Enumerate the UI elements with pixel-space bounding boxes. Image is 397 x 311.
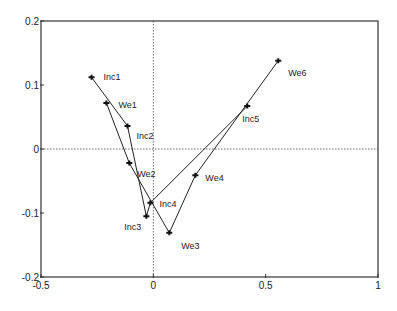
point-label-we3: We3: [181, 241, 199, 251]
y-tick-label: 0.2: [25, 16, 39, 27]
y-tick-label: 0.1: [25, 80, 39, 91]
y-tick-label: 0: [33, 144, 39, 155]
x-tick-label: 0: [151, 280, 157, 291]
point-label-inc4: Inc4: [159, 199, 176, 209]
point-label-we2: We2: [137, 169, 155, 179]
data-point-inc3: [143, 214, 149, 219]
point-label-inc5: Inc5: [242, 114, 259, 124]
data-point-we2: [126, 161, 132, 166]
x-tick-label: 1: [375, 280, 381, 291]
y-tick-label: -0.2: [22, 272, 40, 283]
data-point-we4: [192, 173, 198, 178]
point-label-we4: We4: [205, 173, 223, 183]
point-label-we1: We1: [118, 100, 136, 110]
series-line-inc: [92, 77, 248, 216]
point-label-inc1: Inc1: [104, 72, 121, 82]
data-point-we1: [103, 100, 109, 105]
point-label-inc3: Inc3: [124, 222, 141, 232]
biplot-chart: -0.500.51 -0.2-0.100.10.2 Inc1Inc2Inc3In…: [0, 0, 397, 311]
data-point-inc2: [124, 123, 130, 128]
data-point-we6: [275, 58, 281, 63]
point-label-inc2: Inc2: [136, 131, 153, 141]
y-tick-label: -0.1: [22, 208, 40, 219]
data-point-inc1: [89, 75, 95, 80]
x-tick-label: 0.5: [259, 280, 273, 291]
point-label-we6: We6: [288, 68, 306, 78]
data-point-we3: [166, 230, 172, 235]
